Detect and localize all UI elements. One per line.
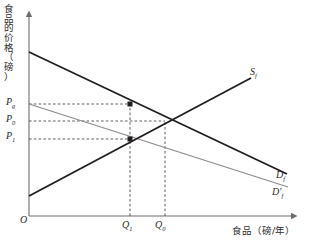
marker-point-price-1 — [128, 137, 133, 142]
qty-0-subscript: 0 — [162, 225, 165, 232]
x-axis-title: 食品（磅/年） — [232, 226, 295, 236]
demand-curve — [29, 52, 287, 174]
price-g-subscript: g — [12, 102, 15, 109]
supply-curve — [29, 78, 251, 196]
chart-plot-area — [0, 0, 313, 241]
qty-1-subscript: 1 — [129, 225, 132, 232]
demand-shift-subscript: f — [281, 192, 283, 199]
supply-curve-label: Sf — [250, 67, 257, 77]
y-axis-title: 食 品 的 价 格 （ 磅 ） — [2, 4, 16, 82]
price-0-subscript: 0 — [12, 119, 15, 126]
demand-curve-label: Df — [276, 170, 285, 180]
x-tick-label-quantity-1: Q1 — [122, 220, 132, 230]
demand-shifted-curve-label: D′f — [272, 187, 283, 197]
y-tick-label-price-1: P1 — [6, 131, 15, 141]
price-1-subscript: 1 — [12, 136, 15, 143]
economics-supply-demand-chart: 食 品 的 价 格 （ 磅 ） 食品（磅/年） O Pg P0 P1 Q1 Q0… — [0, 0, 313, 241]
supply-subscript: f — [255, 72, 257, 79]
demand-subscript: f — [283, 175, 285, 182]
origin-label: O — [20, 215, 27, 225]
y-tick-label-price-g: Pg — [6, 97, 15, 107]
y-axis-title-char-7: ） — [2, 72, 16, 82]
y-tick-label-price-0: P0 — [6, 114, 15, 124]
demand-shift-symbol: D′ — [272, 186, 281, 197]
x-tick-label-quantity-0: Q0 — [155, 220, 165, 230]
marker-point-price-g — [128, 102, 133, 107]
